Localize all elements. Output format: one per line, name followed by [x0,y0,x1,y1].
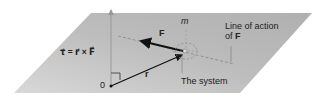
line-of-action-F: F [235,31,241,41]
line-of-action-label: Line of action of F [225,21,279,41]
position-label: r [145,69,149,79]
origin-label: 0 [100,80,105,90]
equation-text: τ⃗ = r⃗ × F⃗ [60,47,95,57]
mass-label: m [181,16,189,26]
system-point [183,49,187,53]
torque-equation: τ⃗ = r⃗ × F⃗ [60,47,95,57]
torque-diagram [0,0,332,98]
line-of-action-text: Line of action [225,21,279,31]
force-label: F [159,28,165,38]
origin-point [110,85,113,88]
system-label: The system [181,76,228,86]
of-text: of [225,31,233,41]
